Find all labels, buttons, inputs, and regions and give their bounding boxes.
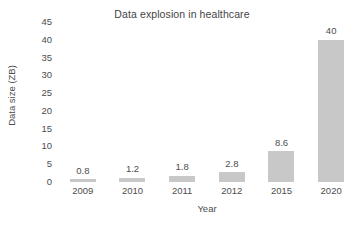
y-axis-tick-15: 15 bbox=[26, 124, 52, 134]
bar-2010[interactable] bbox=[119, 178, 145, 182]
bar-value-label-2011: 1.8 bbox=[176, 162, 189, 172]
x-axis-tick-2011: 2011 bbox=[157, 186, 207, 196]
bar-value-label-2020: 40 bbox=[326, 26, 337, 36]
bar-group-2012: 2.8 bbox=[207, 22, 257, 182]
y-axis-tick-20: 20 bbox=[26, 106, 52, 116]
bar-value-label-2012: 2.8 bbox=[225, 159, 238, 169]
bar-value-label-2010: 1.2 bbox=[126, 164, 139, 174]
bar-group-2020: 40 bbox=[306, 22, 356, 182]
bar-2015[interactable] bbox=[268, 151, 294, 182]
bar-2020[interactable] bbox=[318, 40, 344, 182]
x-axis-tick-2015: 2015 bbox=[257, 186, 307, 196]
y-axis-tick-45: 45 bbox=[26, 17, 52, 27]
y-axis-tick-40: 40 bbox=[26, 35, 52, 45]
bar-group-2015: 8.6 bbox=[257, 22, 307, 182]
x-axis-tick-2010: 2010 bbox=[108, 186, 158, 196]
bar-2011[interactable] bbox=[169, 176, 195, 182]
bar-2009[interactable] bbox=[70, 179, 96, 182]
bar-group-2009: 0.8 bbox=[58, 22, 108, 182]
chart-title: Data explosion in healthcare bbox=[0, 8, 364, 20]
y-axis-tick-10: 10 bbox=[26, 141, 52, 151]
bar-value-label-2009: 0.8 bbox=[76, 166, 89, 176]
x-axis-tick-2009: 2009 bbox=[58, 186, 108, 196]
y-axis-tick-5: 5 bbox=[26, 159, 52, 169]
bar-chart: Data explosion in healthcare Data size (… bbox=[0, 0, 364, 226]
bar-group-2010: 1.2 bbox=[108, 22, 158, 182]
x-axis-tick-2020: 2020 bbox=[306, 186, 356, 196]
y-axis-label-wrapper: Data size (ZB) bbox=[0, 0, 22, 190]
y-axis-label: Data size (ZB) bbox=[6, 65, 17, 126]
y-axis-tick-35: 35 bbox=[26, 53, 52, 63]
x-axis-tick-2012: 2012 bbox=[207, 186, 257, 196]
bar-2012[interactable] bbox=[219, 172, 245, 182]
bar-value-label-2015: 8.6 bbox=[275, 138, 288, 148]
bar-group-2011: 1.8 bbox=[157, 22, 207, 182]
x-axis-label: Year bbox=[58, 203, 356, 214]
y-axis-tick-25: 25 bbox=[26, 88, 52, 98]
y-axis-tick-0: 0 bbox=[26, 177, 52, 187]
plot-area: 0.81.21.82.88.640 bbox=[58, 22, 356, 182]
y-axis-tick-30: 30 bbox=[26, 70, 52, 80]
